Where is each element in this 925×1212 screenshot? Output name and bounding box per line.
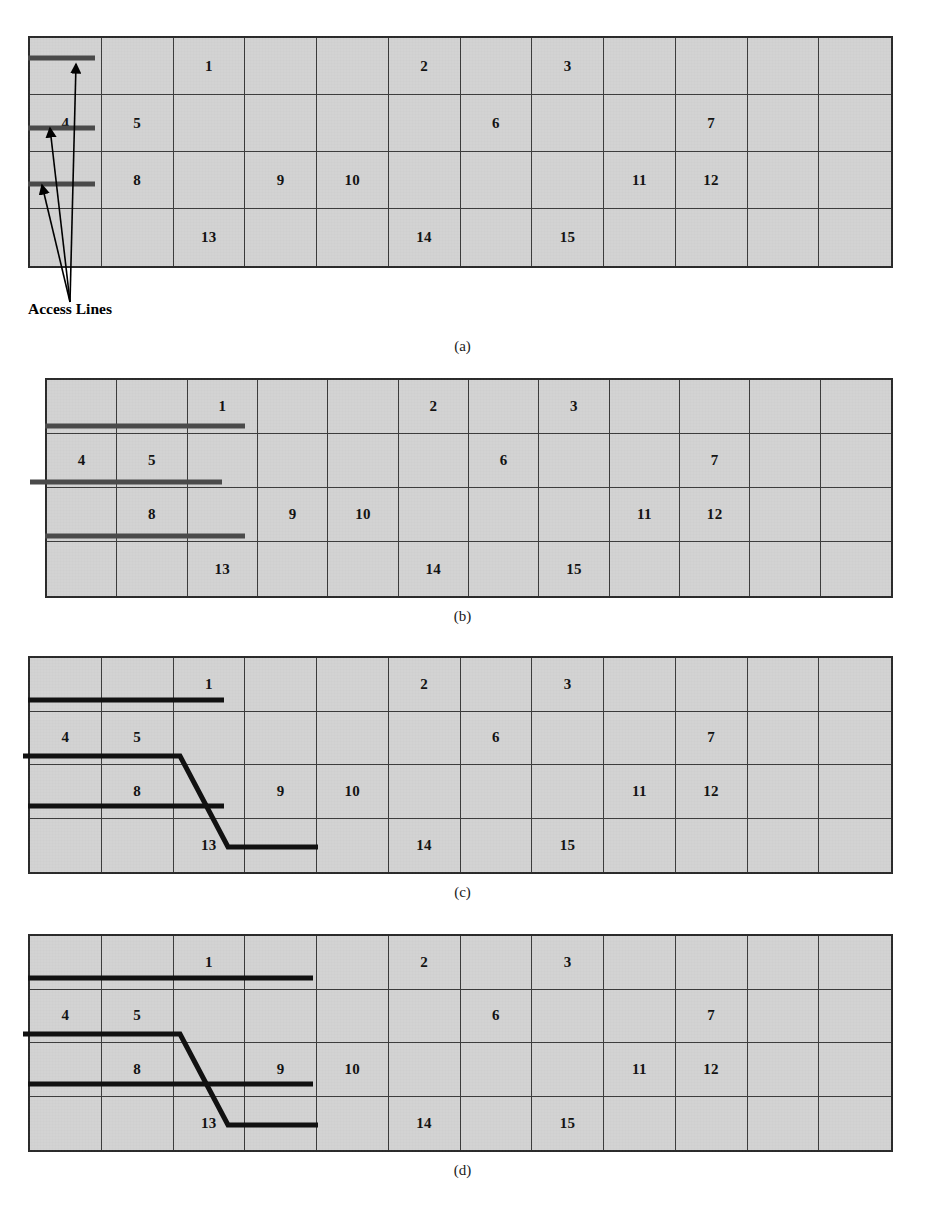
cell-label: 8 bbox=[133, 172, 141, 189]
grid-cell bbox=[399, 434, 469, 488]
cell-label: 3 bbox=[570, 398, 578, 415]
grid-cell bbox=[102, 936, 174, 990]
grid-cell: 7 bbox=[676, 95, 748, 152]
grid-cell: 10 bbox=[328, 488, 398, 542]
grid-cell bbox=[461, 658, 533, 712]
grid-cell bbox=[30, 209, 102, 266]
grid-cell bbox=[317, 819, 389, 873]
grid-cell bbox=[604, 712, 676, 766]
cell-label: 9 bbox=[277, 172, 285, 189]
grid-cell bbox=[30, 1097, 102, 1151]
grid-cell bbox=[461, 765, 533, 819]
cell-label: 10 bbox=[345, 1061, 361, 1078]
grid-cell bbox=[821, 488, 891, 542]
grid-cell: 13 bbox=[174, 819, 246, 873]
cell-label: 10 bbox=[345, 172, 361, 189]
cell-label: 5 bbox=[133, 729, 141, 746]
grid-cell bbox=[258, 380, 328, 434]
cell-label: 15 bbox=[566, 561, 582, 578]
grid-cell bbox=[245, 819, 317, 873]
cell-label: 8 bbox=[148, 506, 156, 523]
cell-label: 4 bbox=[61, 729, 69, 746]
grid-cell: 9 bbox=[245, 1043, 317, 1097]
cell-label: 5 bbox=[133, 115, 141, 132]
cell-label: 12 bbox=[703, 172, 719, 189]
grid-cell bbox=[748, 658, 820, 712]
cell-label: 7 bbox=[707, 729, 715, 746]
grid-cell: 3 bbox=[532, 658, 604, 712]
cell-label: 2 bbox=[420, 58, 428, 75]
grid-cell bbox=[102, 658, 174, 712]
grid-cell bbox=[245, 712, 317, 766]
grid-cell bbox=[819, 712, 891, 766]
cell-label: 6 bbox=[492, 729, 500, 746]
grid-cell bbox=[461, 819, 533, 873]
grid-cell bbox=[245, 658, 317, 712]
grid-cell bbox=[469, 542, 539, 596]
cell-label: 13 bbox=[215, 561, 231, 578]
grid-cell bbox=[748, 936, 820, 990]
grid-cell bbox=[461, 209, 533, 266]
grid-cell: 14 bbox=[399, 542, 469, 596]
grid-cell: 12 bbox=[676, 1043, 748, 1097]
grid-cell bbox=[389, 1043, 461, 1097]
grid-b: 123456789101112131415 bbox=[45, 378, 893, 598]
grid-cell: 4 bbox=[30, 990, 102, 1044]
grid-cell bbox=[532, 765, 604, 819]
grid-cell bbox=[819, 209, 891, 266]
grid-cell: 4 bbox=[30, 95, 102, 152]
cell-label: 13 bbox=[201, 229, 217, 246]
grid-cell bbox=[389, 765, 461, 819]
grid-cell bbox=[30, 936, 102, 990]
grid-cell bbox=[748, 152, 820, 209]
grid-cell bbox=[102, 38, 174, 95]
grid-cell: 11 bbox=[604, 1043, 676, 1097]
cell-label: 15 bbox=[560, 837, 576, 854]
grid-cell bbox=[328, 542, 398, 596]
grid-cell bbox=[469, 488, 539, 542]
grid-d: 123456789101112131415 bbox=[28, 934, 893, 1152]
grid-cell bbox=[610, 434, 680, 488]
cell-label: 12 bbox=[703, 783, 719, 800]
grid-cell: 3 bbox=[539, 380, 609, 434]
grid-cell: 7 bbox=[680, 434, 750, 488]
grid-cell bbox=[748, 712, 820, 766]
grid-cell: 10 bbox=[317, 152, 389, 209]
grid-cell: 15 bbox=[539, 542, 609, 596]
grid-cell bbox=[748, 1043, 820, 1097]
cell-label: 1 bbox=[205, 954, 213, 971]
grid-cell bbox=[604, 1097, 676, 1151]
grid-cell: 5 bbox=[117, 434, 187, 488]
grid-cell bbox=[317, 1097, 389, 1151]
grid-cell bbox=[30, 658, 102, 712]
grid-cell bbox=[461, 936, 533, 990]
cell-label: 10 bbox=[355, 506, 371, 523]
cell-label: 3 bbox=[564, 58, 572, 75]
grid-cell bbox=[258, 542, 328, 596]
grid-cell: 1 bbox=[188, 380, 258, 434]
grid-cell bbox=[174, 765, 246, 819]
grid-cell bbox=[604, 209, 676, 266]
grid-cell bbox=[604, 936, 676, 990]
grid-cell bbox=[532, 95, 604, 152]
grid-cell bbox=[821, 380, 891, 434]
grid-cell: 11 bbox=[604, 152, 676, 209]
grid-cell bbox=[532, 712, 604, 766]
grid-cell: 2 bbox=[399, 380, 469, 434]
grid-cell bbox=[47, 380, 117, 434]
grid-cell: 10 bbox=[317, 1043, 389, 1097]
cell-label: 2 bbox=[420, 676, 428, 693]
grid-cell bbox=[461, 38, 533, 95]
grid-cell bbox=[750, 488, 820, 542]
panel-b: 123456789101112131415 bbox=[45, 378, 893, 598]
cell-label: 2 bbox=[420, 954, 428, 971]
cell-label: 7 bbox=[707, 1007, 715, 1024]
grid-cell bbox=[539, 434, 609, 488]
cell-label: 11 bbox=[632, 172, 647, 189]
grid-cell: 9 bbox=[258, 488, 328, 542]
grid-cell bbox=[676, 936, 748, 990]
grid-cell: 1 bbox=[174, 658, 246, 712]
cell-label: 1 bbox=[218, 398, 226, 415]
grid-cell bbox=[819, 990, 891, 1044]
grid-cell: 13 bbox=[174, 209, 246, 266]
